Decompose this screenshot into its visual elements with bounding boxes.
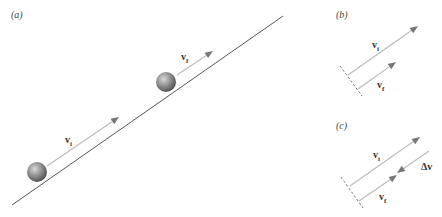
arrow-shaft <box>47 122 112 166</box>
balls <box>27 72 176 182</box>
v-final-label: vf <box>377 79 385 93</box>
delta-v-label: Δv <box>421 161 432 172</box>
v-initial-arrow: vi <box>47 117 119 166</box>
v-final-label: vf <box>181 51 189 65</box>
v-initial-label: vi <box>65 134 72 148</box>
panel-c: (c) vivfΔv <box>336 120 432 208</box>
v-initial-arrow: vi <box>348 26 418 75</box>
arrow-shaft <box>348 31 411 75</box>
arrowhead-icon <box>397 166 405 173</box>
v-final-label: vf <box>379 191 387 205</box>
panel-c-vectors: vivfΔv <box>350 137 432 205</box>
ball-initial <box>27 162 47 182</box>
incline-line <box>12 16 283 205</box>
arrow-shaft <box>350 142 413 186</box>
panel-c-label: (c) <box>336 120 348 132</box>
arrowhead-icon <box>111 117 119 124</box>
ball-final <box>156 72 176 92</box>
v-final-arrow: vf <box>358 62 396 93</box>
arrowhead-icon <box>205 51 213 58</box>
arrowhead-icon <box>410 26 418 33</box>
velocity-diagram: (a) vivf (b) vivf (c) vivfΔv <box>0 0 442 217</box>
panel-a-label: (a) <box>11 9 23 21</box>
reference-dashed-line <box>341 177 363 208</box>
panel-b: (b) vivf <box>336 9 418 96</box>
panel-b-vectors: vivf <box>348 26 418 93</box>
arrow-shaft <box>358 67 389 89</box>
arrowhead-icon <box>412 137 420 144</box>
v-final-arrow: vf <box>359 175 397 205</box>
v-initial-label: vi <box>372 39 379 53</box>
diagram-canvas: (a) vivf (b) vivf (c) vivfΔv <box>0 0 442 217</box>
panel-b-label: (b) <box>336 9 348 21</box>
delta-v-arrow: Δv <box>397 151 432 173</box>
v-initial-label: vi <box>373 149 380 163</box>
panel-a: (a) vivf <box>11 9 283 205</box>
v-final-arrow: vf <box>177 51 213 75</box>
arrowhead-icon <box>389 175 397 182</box>
v-initial-arrow: vi <box>350 137 420 186</box>
reference-dashed-line <box>340 66 362 96</box>
arrowhead-icon <box>388 62 396 69</box>
panel-a-vectors: vivf <box>47 51 213 166</box>
